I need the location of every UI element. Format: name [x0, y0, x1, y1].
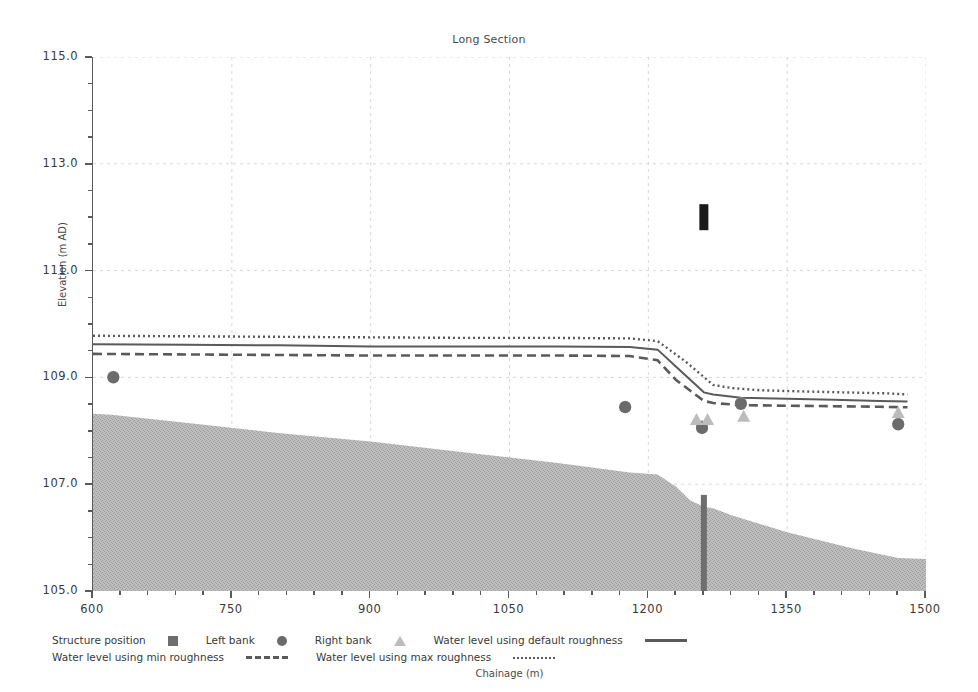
x-axis-label: Chainage (m) — [93, 668, 926, 679]
right-bank-swatch-icon — [394, 636, 406, 646]
legend-label-default-roughness: Water level using default roughness — [434, 632, 623, 649]
x-tick-label: 1050 — [479, 602, 539, 616]
x-tick-label: 750 — [201, 602, 261, 616]
legend-label-max-roughness: Water level using max roughness — [316, 649, 491, 666]
min-roughness-swatch-icon — [246, 656, 288, 659]
y-tick-label: 107.0 — [8, 476, 78, 490]
x-tick-label: 1200 — [617, 602, 677, 616]
chart-legend: Structure position Left bank Right bank … — [52, 632, 952, 666]
default-roughness-swatch-icon — [645, 639, 687, 642]
plot-area: Elevation (m AD) Chainage (m) — [92, 57, 925, 591]
legend-label-structure-position: Structure position — [52, 632, 146, 649]
chart-page: Long Section Elevation (m AD) Chainage (… — [0, 0, 978, 692]
structure-position-swatch-icon — [168, 636, 178, 646]
legend-label-right-bank: Right bank — [315, 632, 372, 649]
page-title: Long Section — [0, 33, 978, 46]
max-roughness-swatch-icon — [513, 657, 555, 659]
x-tick-label: 900 — [340, 602, 400, 616]
y-tick-label: 111.0 — [8, 263, 78, 277]
y-tick-label: 105.0 — [8, 583, 78, 597]
y-tick-label: 113.0 — [8, 156, 78, 170]
y-tick-label: 115.0 — [8, 49, 78, 63]
left-bank-swatch-icon — [277, 636, 287, 646]
y-tick-label: 109.0 — [8, 369, 78, 383]
legend-label-min-roughness: Water level using min roughness — [52, 649, 224, 666]
chart-canvas — [93, 57, 926, 591]
legend-row: Structure position Left bank Right bank … — [52, 632, 952, 649]
x-tick-label: 1500 — [895, 602, 955, 616]
x-tick-label: 600 — [62, 602, 122, 616]
legend-row: Water level using min roughness Water le… — [52, 649, 952, 666]
legend-label-left-bank: Left bank — [206, 632, 255, 649]
x-tick-label: 1350 — [756, 602, 816, 616]
